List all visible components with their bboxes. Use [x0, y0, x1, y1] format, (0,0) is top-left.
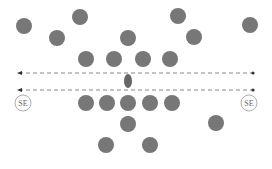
- dot-4: [49, 30, 65, 46]
- diagram-canvas: SE SE: [0, 0, 272, 169]
- center-ellipse: [124, 74, 132, 88]
- arrowhead-left-icon: [17, 71, 22, 75]
- dot-3: [242, 17, 258, 33]
- dot-2: [170, 8, 186, 24]
- dot-14: [142, 95, 158, 111]
- dot-6: [186, 29, 202, 45]
- dashed-lines: [17, 71, 255, 92]
- se-label-left-text: SE: [18, 99, 27, 108]
- arrowhead-left-icon: [17, 88, 22, 92]
- dot-5: [120, 30, 136, 46]
- dot-15: [164, 95, 180, 111]
- dot-18: [98, 137, 114, 153]
- line-end-dot: [251, 88, 254, 91]
- dot-13: [120, 95, 136, 111]
- dot-8: [106, 51, 122, 67]
- dot-10: [162, 51, 178, 67]
- dot-11: [78, 95, 94, 111]
- se-label-left: SE: [15, 95, 31, 111]
- se-label-right-text: SE: [244, 99, 253, 108]
- dot-12: [99, 95, 115, 111]
- dot-9: [135, 51, 151, 67]
- dot-19: [142, 137, 158, 153]
- dot-7: [78, 51, 94, 67]
- dot-17: [208, 115, 224, 131]
- dot-1: [72, 9, 88, 25]
- se-label-right: SE: [241, 95, 257, 111]
- line-end-dot: [251, 71, 254, 74]
- dot-0: [16, 18, 32, 34]
- dot-16: [120, 116, 136, 132]
- diagram-svg: SE SE: [0, 0, 272, 169]
- particle-dots: [16, 8, 258, 153]
